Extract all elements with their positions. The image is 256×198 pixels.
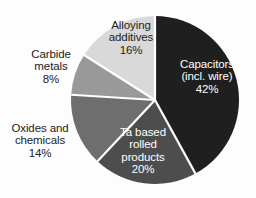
slice-label-capacitors-line1: Capacitors — [163, 58, 251, 70]
slice-label-alloying-line1: Alloying — [95, 19, 167, 31]
slice-label-ta-rolled-line3: products — [106, 151, 180, 163]
slice-label-carbide-metals: Carbide metals 8% — [20, 48, 82, 85]
slice-label-carbide-line2: metals — [20, 60, 82, 72]
slice-label-carbide-line1: Carbide — [20, 48, 82, 60]
slice-label-ta-rolled-value: 20% — [106, 163, 180, 175]
slice-label-ta-based-rolled-products: Ta based rolled products 20% — [106, 126, 180, 176]
slice-label-ta-rolled-line2: rolled — [106, 138, 180, 150]
slice-label-capacitors-value: 42% — [163, 83, 251, 95]
slice-label-carbide-value: 8% — [20, 73, 82, 85]
slice-label-capacitors: Capacitors (incl. wire) 42% — [163, 58, 251, 95]
slice-label-alloying-additives: Alloying additives 16% — [95, 19, 167, 56]
slice-label-ta-rolled-line1: Ta based — [106, 126, 180, 138]
slice-label-oxides-line1: Oxides and — [2, 122, 78, 134]
slice-label-oxides-and-chemicals: Oxides and chemicals 14% — [2, 122, 78, 159]
slice-label-alloying-value: 16% — [95, 44, 167, 56]
slice-label-alloying-line2: additives — [95, 31, 167, 43]
slice-label-capacitors-line2: (incl. wire) — [163, 70, 251, 82]
pie-chart-figure: Capacitors (incl. wire) 42% Ta based rol… — [0, 0, 256, 198]
slice-label-oxides-value: 14% — [2, 147, 78, 159]
slice-label-oxides-line2: chemicals — [2, 134, 78, 146]
